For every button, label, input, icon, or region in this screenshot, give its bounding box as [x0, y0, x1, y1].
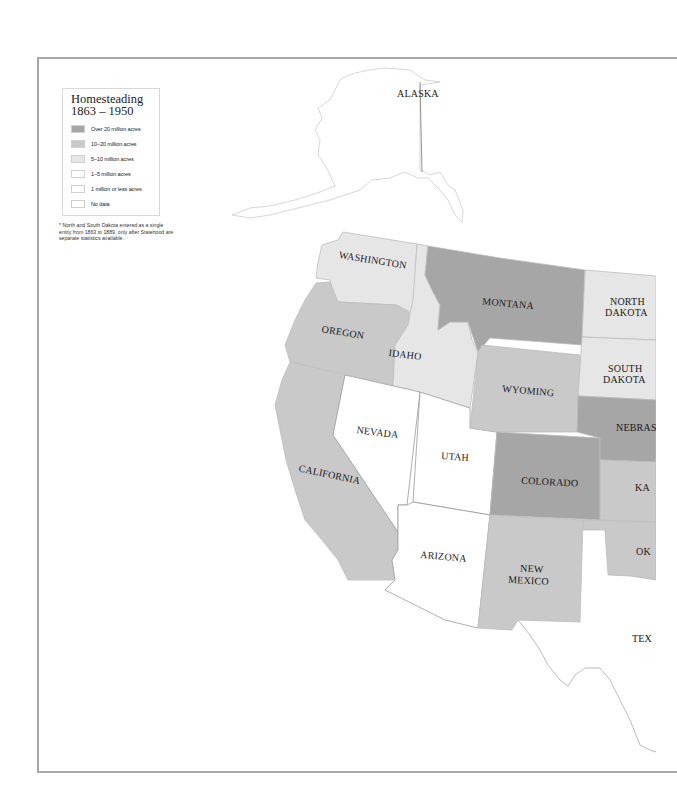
- legend-row-under1: 1 million or less acres: [71, 181, 159, 196]
- label-new-mexico-2: MEXICO: [508, 574, 549, 587]
- state-arizona: [385, 502, 490, 628]
- legend-label: Over 20 million acres: [91, 126, 141, 132]
- map-legend: Homesteading 1863 – 1950 Over 20 million…: [62, 88, 160, 216]
- label-oklahoma: OK: [636, 546, 651, 557]
- legend-title: Homesteading 1863 – 1950: [71, 93, 159, 117]
- legend-swatch: [71, 185, 85, 193]
- legend-label: 10–20 million acres: [91, 141, 137, 147]
- legend-swatch: [71, 170, 85, 178]
- label-south-dakota-1: SOUTH: [608, 363, 642, 374]
- legend-label: 1–5 million acres: [91, 171, 131, 177]
- legend-label: 5–10 million acres: [91, 156, 134, 162]
- legend-swatch: [71, 140, 85, 148]
- label-north-dakota-2: DAKOTA: [605, 307, 648, 318]
- legend-row-1to5: 1–5 million acres: [71, 166, 159, 181]
- legend-row-over20: Over 20 million acres: [71, 121, 159, 136]
- label-texas: TEX: [632, 633, 653, 644]
- label-alaska: ALASKA: [397, 88, 439, 99]
- label-nebraska: NEBRAS: [616, 422, 656, 433]
- legend-row-no-data: No data: [71, 196, 159, 211]
- legend-swatch: [71, 200, 85, 208]
- label-south-dakota-2: DAKOTA: [603, 374, 646, 385]
- label-kansas: KA: [635, 482, 650, 493]
- label-utah: UTAH: [441, 450, 469, 463]
- label-north-dakota-1: NORTH: [610, 296, 645, 307]
- legend-footnote: * North and South Dakota entered as a si…: [59, 222, 177, 242]
- legend-label: No data: [91, 201, 110, 207]
- label-new-mexico-1: NEW: [520, 562, 544, 574]
- legend-row-10to20: 10–20 million acres: [71, 136, 159, 151]
- legend-label: 1 million or less acres: [91, 186, 142, 192]
- legend-swatch: [71, 155, 85, 163]
- legend-row-5to10: 5–10 million acres: [71, 151, 159, 166]
- legend-title-line2: 1863 – 1950: [71, 105, 159, 117]
- legend-swatch: [71, 125, 85, 133]
